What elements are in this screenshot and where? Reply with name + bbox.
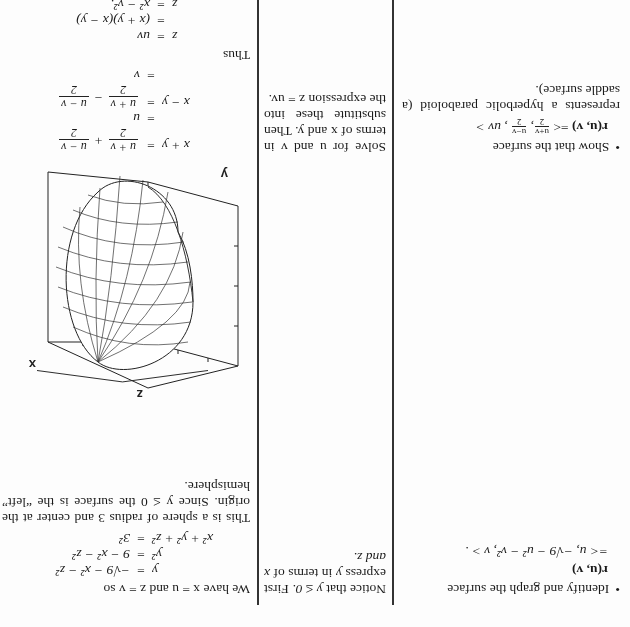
column-divider-left <box>393 0 395 605</box>
solution-2-equations: x + y = u + v2 + u − v2 = u x − y = u + … <box>2 67 232 153</box>
solution-2-equations-2: z = uv = (x + y)(x − y) z = x² − y². <box>2 0 232 44</box>
x-axis-label: x <box>28 357 36 372</box>
solution-1: We have x = u and z = v so y = −√9 − x² … <box>2 475 250 597</box>
question-2-outro: represents a hyperbolic paraboloid (a sa… <box>402 82 620 114</box>
solution-1-equations: y = −√9 − x² − z² y² = 9 − x² − z² x² + … <box>2 530 232 578</box>
solution-1-conclusion: This is a sphere of radius 3 and center … <box>2 478 250 526</box>
hint-2: Solve for u and v in terms of x and y. T… <box>264 88 386 155</box>
solution-1-intro: We have x = u and z = v so <box>2 581 250 597</box>
solution-2-thus: Thus <box>2 47 250 63</box>
question-2-intro: Show that the surface <box>402 139 620 155</box>
solution-2: x + y = u + v2 + u − v2 = u x − y = u + … <box>2 0 250 155</box>
question-2-definition: r(u, v) =< u+v2, u−v2 , uv > <box>402 117 608 136</box>
document-page: Identify and graph the surface r(u, v) =… <box>0 0 630 627</box>
question-1-definition: =< u, −√9 − u² − v², v > . <box>402 543 608 559</box>
z-axis-label: z <box>136 387 143 402</box>
hemisphere-plot: z x y <box>8 152 248 402</box>
question-1-intro: Identify and graph the surface <box>402 581 620 597</box>
hint-1: Notice that y ≤ 0. First express y in te… <box>264 546 386 597</box>
y-axis-label: y <box>220 167 228 182</box>
column-divider-right <box>258 0 260 605</box>
hint-1-text: Notice that y ≤ 0. First express y in te… <box>264 549 386 597</box>
question-1: Identify and graph the surface r(u, v) =… <box>402 540 620 597</box>
hemisphere-figure: z x y <box>8 152 248 402</box>
hint-2-text: Solve for u and v in terms of x and y. T… <box>264 91 386 155</box>
question-2: Show that the surface r(u, v) =< u+v2, u… <box>402 79 620 155</box>
question-1-r-label: r(u, v) <box>402 562 608 578</box>
